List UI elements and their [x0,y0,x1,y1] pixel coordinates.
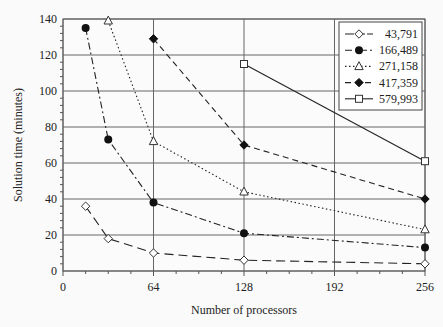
data-point-marker [82,24,90,32]
data-point-marker [421,244,429,252]
line-chart: 020406080100120140064128192256 43,791166… [0,0,443,327]
legend-label: 166,489 [379,43,418,57]
data-point-marker [422,158,429,165]
x-tick-label: 256 [416,280,434,294]
data-point-marker [104,136,112,144]
legend-label: 417,359 [379,76,418,90]
legend-label: 43,791 [385,27,418,41]
legend-marker [356,95,363,102]
legend-marker [355,46,363,54]
y-axis-label: Solution time (minutes) [11,88,25,202]
data-point-marker [241,61,248,68]
x-tick-label: 64 [148,280,160,294]
data-point-marker [150,199,158,207]
legend-label: 271,158 [379,59,418,73]
x-tick-label: 128 [235,280,253,294]
y-tick-label: 100 [39,84,57,98]
y-tick-label: 60 [45,156,57,170]
legend-label: 579,993 [379,92,418,106]
y-tick-label: 120 [39,48,57,62]
data-point-marker [240,229,248,237]
y-tick-label: 0 [51,264,57,278]
legend: 43,791166,489271,158417,359579,993 [339,22,422,110]
y-tick-label: 40 [45,192,57,206]
x-tick-label: 192 [326,280,344,294]
y-tick-label: 140 [39,12,57,26]
y-tick-label: 20 [45,228,57,242]
x-tick-label: 0 [60,280,66,294]
x-axis-label: Number of processors [191,303,297,317]
y-tick-label: 80 [45,120,57,134]
